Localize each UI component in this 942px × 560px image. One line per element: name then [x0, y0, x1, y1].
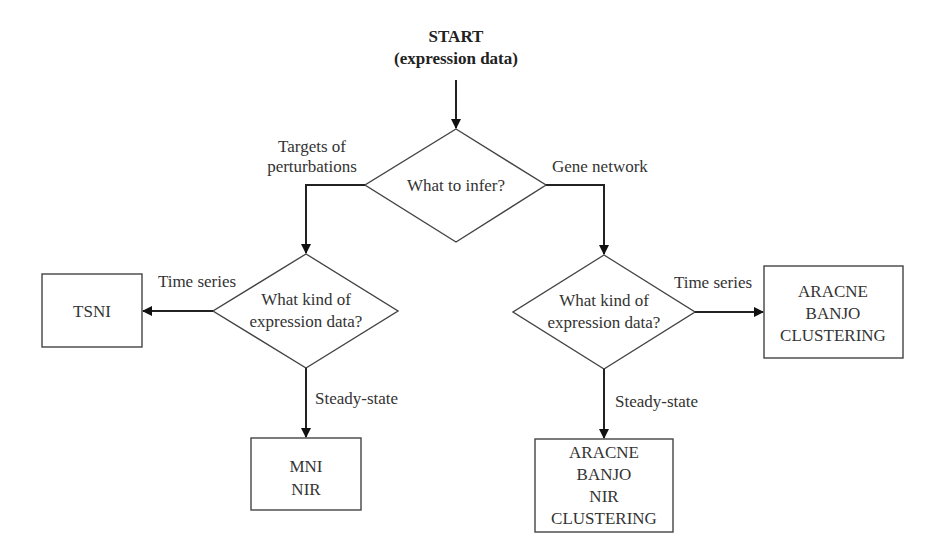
box-right-time-line: CLUSTERING — [780, 326, 886, 345]
edge-infer-to-right — [546, 185, 604, 254]
box-right-steady-line: ARACNE — [569, 443, 639, 462]
start-subtitle: (expression data) — [394, 49, 518, 68]
label-perturbations: perturbations — [267, 157, 357, 176]
box-right-steady-line: NIR — [589, 487, 619, 506]
box-right-steady-line: BANJO — [577, 465, 632, 484]
decision-left-expression-kind — [213, 254, 398, 368]
label-gene-network: Gene network — [552, 157, 648, 176]
decision-left-line2: expression data? — [250, 312, 363, 331]
decision-what-to-infer-label: What to infer? — [407, 176, 505, 195]
start-title: START — [429, 27, 484, 46]
box-mni-nir-line: MNI — [289, 457, 322, 476]
decision-right-line2: expression data? — [548, 313, 661, 332]
box-right-time-line: ARACNE — [798, 282, 868, 301]
flowchart: START (expression data) What to infer? T… — [0, 0, 942, 560]
label-targets-of: Targets of — [278, 137, 346, 156]
box-tsni-line: TSNI — [73, 302, 111, 321]
box-right-time-line: BANJO — [806, 304, 861, 323]
label-right-steady-state: Steady-state — [615, 392, 698, 411]
decision-left-line1: What kind of — [261, 290, 351, 309]
edge-infer-to-left — [306, 185, 365, 253]
label-left-time-series: Time series — [158, 272, 236, 291]
decision-right-expression-kind — [513, 255, 695, 369]
box-mni-nir-line: NIR — [291, 480, 321, 499]
decision-right-line1: What kind of — [559, 291, 649, 310]
label-left-steady-state: Steady-state — [315, 389, 398, 408]
label-right-time-series: Time series — [674, 273, 752, 292]
box-right-steady-line: CLUSTERING — [551, 509, 657, 528]
